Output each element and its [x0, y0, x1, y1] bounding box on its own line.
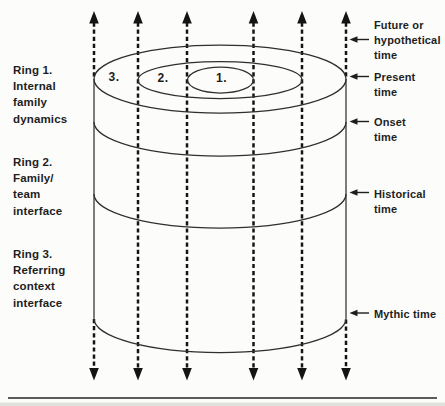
label-line: dynamics — [13, 111, 67, 127]
label-line: interface — [13, 203, 62, 219]
family-time-cylinder-figure: Ring 1. Internal family dynamics Ring 2.… — [0, 0, 445, 406]
onset-pointer-arrow — [350, 118, 370, 124]
label-line: Mythic time — [374, 307, 436, 322]
arrowhead-down-icon — [133, 368, 143, 381]
label-line: time — [374, 130, 406, 145]
dashed-time-arrow-3 — [182, 11, 192, 381]
future-time-label: Future or hypothetical time — [374, 18, 441, 63]
mythic-time-label: Mythic time — [374, 307, 436, 322]
arrowhead-left-icon — [350, 118, 358, 124]
label-line: time — [374, 202, 426, 217]
label-line: interface — [13, 295, 65, 311]
label-line: Ring 1. — [13, 62, 67, 78]
ring1-label: Ring 1. Internal family dynamics — [13, 62, 67, 127]
ring3-number: 3. — [108, 70, 119, 84]
label-line: hypothetical — [374, 33, 441, 48]
arrowhead-up-icon — [341, 11, 351, 24]
label-line: Referring — [13, 262, 65, 278]
label-line: team — [13, 186, 62, 202]
arrowhead-left-icon — [350, 73, 358, 79]
label-line: Ring 3. — [13, 246, 65, 262]
cylinder — [94, 45, 346, 353]
arrowhead-up-icon — [89, 11, 99, 24]
ring2-label: Ring 2. Family/ team interface — [13, 154, 62, 219]
arrowhead-down-icon — [297, 368, 307, 381]
historical-time-label: Historical time — [374, 187, 426, 217]
arrowhead-down-icon — [89, 368, 99, 381]
ring1-number: 1. — [216, 71, 227, 85]
label-line: family — [13, 94, 67, 110]
future-pointer-arrow — [350, 36, 370, 42]
label-line: Family/ — [13, 170, 62, 186]
label-line: time — [374, 85, 415, 100]
dashed-time-arrow-4 — [249, 11, 259, 381]
arrowhead-up-icon — [297, 11, 307, 24]
present-time-label: Present time — [374, 70, 415, 100]
dashed-time-arrow-5 — [297, 11, 307, 381]
mythic-pointer-arrow — [350, 310, 370, 316]
onset-band-arc — [94, 122, 346, 156]
label-line: Future or — [374, 18, 441, 33]
label-line: context — [13, 278, 65, 294]
label-line: Internal — [13, 78, 67, 94]
label-pointer-arrows — [350, 36, 370, 316]
arrowhead-up-icon — [182, 11, 192, 24]
scan-edge-band — [0, 403, 445, 406]
label-line: time — [374, 48, 441, 63]
arrowhead-left-icon — [350, 310, 358, 316]
ring3-label: Ring 3. Referring context interface — [13, 246, 65, 311]
label-line: Present — [374, 70, 415, 85]
onset-time-label: Onset time — [374, 115, 406, 145]
cylinder-bottom-arc — [94, 319, 346, 353]
ring2-number: 2. — [157, 71, 168, 85]
arrowhead-up-icon — [249, 11, 259, 24]
label-line: Onset — [374, 115, 406, 130]
historical-band-arc — [94, 194, 346, 228]
historical-pointer-arrow — [350, 189, 370, 195]
arrowhead-down-icon — [341, 368, 351, 381]
present-pointer-arrow — [350, 73, 370, 79]
arrowhead-down-icon — [182, 368, 192, 381]
arrowhead-left-icon — [350, 36, 358, 42]
arrowhead-up-icon — [133, 11, 143, 24]
label-line: Ring 2. — [13, 154, 62, 170]
arrowhead-down-icon — [249, 368, 259, 381]
dashed-time-arrow-2 — [133, 11, 143, 381]
arrowhead-left-icon — [350, 189, 358, 195]
label-line: Historical — [374, 187, 426, 202]
